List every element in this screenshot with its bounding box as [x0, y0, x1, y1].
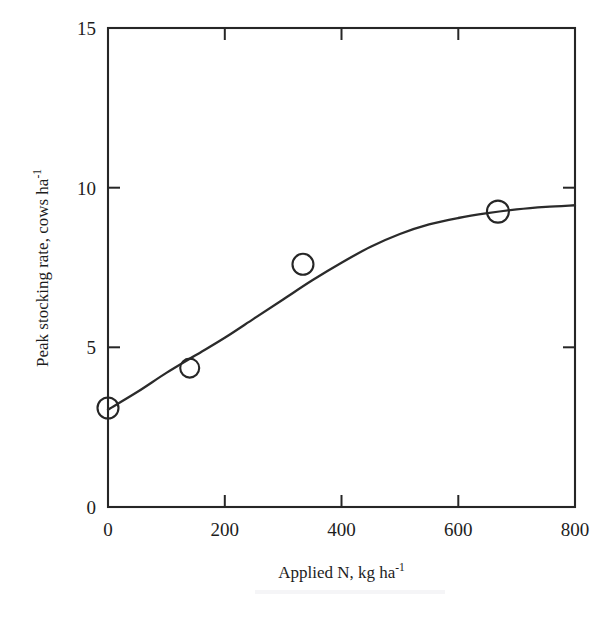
x-axis-title-text: Applied N, kg ha	[278, 563, 396, 582]
y-axis-title: Peak stocking rate, cows ha-1	[31, 169, 52, 367]
y-tick-label-5: 5	[87, 337, 97, 358]
stocking-rate-chart: 15 10 5 0 0 200 400 600 800 Applied N, k…	[0, 0, 614, 619]
plot-frame	[108, 28, 575, 507]
x-tick-label-800: 800	[561, 519, 590, 540]
x-tick-label-200: 200	[211, 519, 240, 540]
data-markers	[98, 201, 509, 419]
data-point-2	[292, 254, 313, 275]
figure-container: 15 10 5 0 0 200 400 600 800 Applied N, k…	[0, 0, 614, 619]
y-tick-labels: 15 10 5 0	[77, 18, 96, 518]
x-axis-ticks	[108, 495, 575, 507]
y-tick-label-0: 0	[87, 497, 97, 518]
fitted-curve-main	[108, 205, 575, 409]
x-tick-label-600: 600	[444, 519, 473, 540]
y-tick-label-10: 10	[77, 178, 96, 199]
data-point-1	[180, 359, 199, 378]
y-axis-ticks	[108, 28, 120, 507]
y-axis-title-text: Peak stocking rate, cows ha	[33, 178, 52, 367]
x-tick-label-400: 400	[327, 519, 356, 540]
x-tick-label-0: 0	[103, 519, 113, 540]
x-axis-title: Applied N, kg ha-1	[278, 561, 405, 582]
right-axis-ticks	[563, 188, 575, 348]
scan-artifact	[255, 590, 445, 594]
y-axis-title-exponent: -1	[31, 169, 43, 179]
y-tick-label-15: 15	[77, 18, 96, 39]
top-axis-ticks	[225, 28, 458, 40]
x-axis-title-exponent: -1	[395, 561, 405, 573]
x-tick-labels: 0 200 400 600 800	[103, 519, 589, 540]
